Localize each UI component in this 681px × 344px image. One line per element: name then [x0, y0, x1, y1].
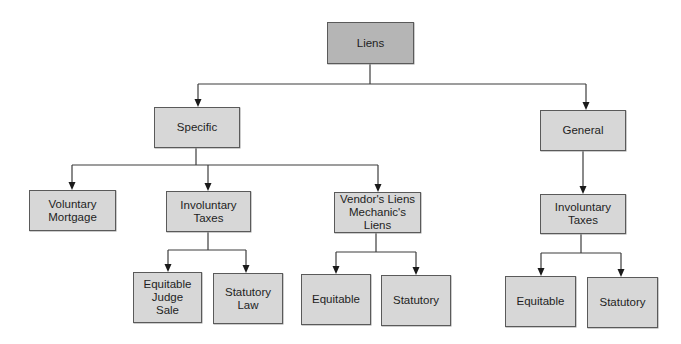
node-label: Statutory — [393, 294, 439, 307]
arrowhead-icon — [413, 267, 420, 275]
node-label: Specific — [177, 121, 217, 134]
node-label: Equitable — [517, 295, 565, 308]
node-involuntary-taxes-general: Involuntary Taxes — [540, 194, 626, 234]
node-label: Involuntary Taxes — [555, 201, 611, 227]
arrowhead-icon — [580, 186, 587, 194]
node-equitable-judge-sale: Equitable Judge Sale — [133, 272, 202, 323]
node-statutory-vendors: Statutory — [381, 275, 451, 326]
node-label: Vendor's Liens Mechanic's Liens — [335, 193, 420, 232]
node-label: Equitable Judge Sale — [144, 278, 192, 317]
node-label: Statutory Law — [225, 286, 271, 312]
arrowhead-icon — [205, 183, 212, 191]
node-label: Liens — [357, 37, 385, 50]
node-label: Voluntary Mortgage — [48, 198, 97, 224]
arrowhead-icon — [375, 184, 382, 192]
arrowhead-icon — [165, 264, 172, 272]
node-liens: Liens — [327, 22, 414, 64]
node-voluntary-mortgage: Voluntary Mortgage — [29, 190, 116, 231]
node-equitable-general: Equitable — [505, 276, 576, 327]
node-specific: Specific — [154, 107, 240, 148]
node-label: General — [563, 124, 604, 137]
arrowhead-icon — [583, 102, 590, 110]
arrowhead-icon — [538, 268, 545, 276]
node-statutory-general: Statutory — [587, 277, 658, 328]
arrowhead-icon — [333, 266, 340, 274]
node-equitable-vendors: Equitable — [301, 274, 371, 325]
node-involuntary-taxes-specific: Involuntary Taxes — [166, 191, 251, 232]
arrowhead-icon — [69, 182, 76, 190]
node-general: General — [540, 110, 626, 151]
node-statutory-law: Statutory Law — [213, 273, 283, 324]
node-label: Statutory — [599, 296, 645, 309]
arrowhead-icon — [243, 265, 250, 273]
node-label: Involuntary Taxes — [180, 199, 236, 225]
node-label: Equitable — [312, 293, 360, 306]
node-vendors-mechanics-liens: Vendor's Liens Mechanic's Liens — [334, 192, 421, 233]
liens-tree-diagram: Liens Specific General Voluntary Mortgag… — [0, 0, 681, 344]
arrowhead-icon — [195, 99, 202, 107]
arrowhead-icon — [618, 269, 625, 277]
